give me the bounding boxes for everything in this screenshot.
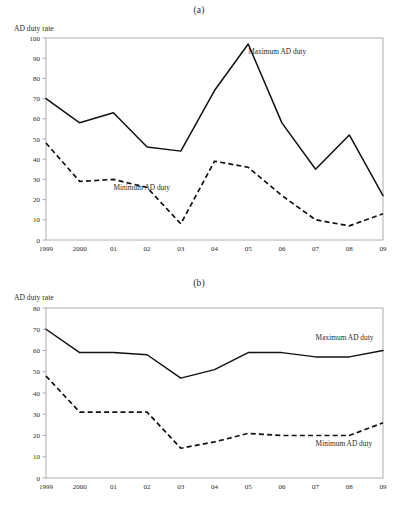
y-tick-label: 70 (33, 326, 41, 334)
annotation-maximum-ad-duty: Maximum AD duty (248, 47, 306, 56)
x-tick-label: 07 (312, 483, 320, 491)
y-tick-label: 60 (33, 347, 41, 355)
y-tick-label: 30 (33, 176, 41, 184)
panel-a-caption: (a) (0, 0, 398, 15)
y-tick-label: 80 (33, 305, 41, 313)
x-tick-label: 02 (144, 245, 152, 253)
x-tick-label: 1999 (39, 483, 54, 491)
y-tick-label: 0 (37, 475, 41, 483)
y-tick-label: 20 (33, 432, 41, 440)
y-tick-label: 0 (37, 237, 41, 245)
x-tick-label: 06 (278, 245, 286, 253)
x-tick-label: 08 (346, 245, 354, 253)
x-tick-label: 03 (177, 245, 185, 253)
annotation-maximum-ad-duty: Maximum AD duty (316, 333, 374, 342)
x-tick-label: 05 (245, 245, 253, 253)
x-tick-label: 05 (245, 483, 253, 491)
x-tick-label: 09 (380, 245, 388, 253)
x-tick-label: 09 (380, 483, 388, 491)
y-tick-label: 100 (30, 35, 41, 43)
y-tick-label: 60 (33, 115, 41, 123)
panel-a-plot-area: 0102030405060708090100199920000102030405… (0, 30, 398, 274)
x-tick-label: 2000 (73, 483, 88, 491)
y-tick-label: 80 (33, 75, 41, 83)
x-tick-label: 01 (110, 483, 118, 491)
x-tick-label: 06 (278, 483, 286, 491)
x-tick-label: 02 (144, 483, 152, 491)
y-tick-label: 50 (33, 136, 41, 144)
x-tick-label: 04 (211, 483, 219, 491)
x-tick-label: 03 (177, 483, 185, 491)
y-tick-label: 70 (33, 95, 41, 103)
y-tick-label: 50 (33, 368, 41, 376)
y-tick-label: 30 (33, 411, 41, 419)
plot-box (46, 38, 383, 240)
annotation-minimum-ad-duty: Minimum AD duty (113, 183, 170, 192)
x-tick-label: 2000 (73, 245, 88, 253)
y-tick-label: 40 (33, 156, 41, 164)
panel-a-svg: 0102030405060708090100199920000102030405… (0, 30, 398, 274)
series-line-minimum-ad-duty (46, 143, 383, 226)
chart-panel-a: (a) AD duty rate 01020304050607080901001… (0, 0, 398, 274)
x-tick-label: 04 (211, 245, 219, 253)
x-tick-label: 1999 (39, 245, 54, 253)
annotation-minimum-ad-duty: Minimum AD duty (316, 439, 373, 448)
y-tick-label: 40 (33, 390, 41, 398)
x-tick-label: 08 (346, 483, 354, 491)
y-tick-label: 10 (33, 453, 41, 461)
x-tick-label: 07 (312, 245, 320, 253)
series-line-minimum-ad-duty (46, 376, 383, 448)
y-tick-label: 90 (33, 55, 41, 63)
chart-panel-b: (b) AD duty rate 01020304050607080199920… (0, 274, 398, 514)
panel-b-svg: 0102030405060708019992000010203040506070… (0, 300, 398, 514)
panel-b-plot-area: 0102030405060708019992000010203040506070… (0, 300, 398, 514)
panel-b-caption: (b) (0, 274, 398, 288)
series-line-maximum-ad-duty (46, 44, 383, 196)
x-tick-label: 01 (110, 245, 118, 253)
y-tick-label: 10 (33, 216, 41, 224)
y-tick-label: 20 (33, 196, 41, 204)
